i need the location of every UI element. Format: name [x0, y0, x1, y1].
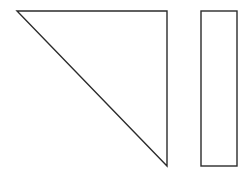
diagram-canvas: [0, 0, 249, 178]
right-triangle-shape: [17, 11, 167, 166]
tall-rectangle-shape: [201, 11, 237, 166]
